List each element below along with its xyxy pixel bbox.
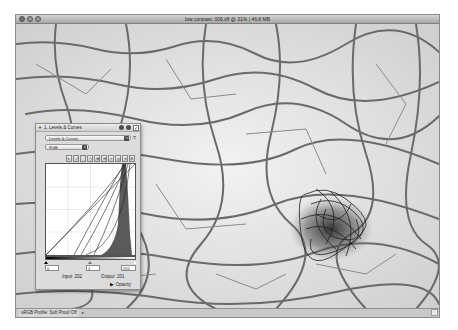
resize-grip[interactable] [431,309,438,316]
opacity-label: Opacity [116,282,131,287]
chevron-down-icon: ▾ [124,136,129,141]
status-bar: sRGB Profile: Soft Proof Off ▸ [16,308,439,317]
panel-header[interactable]: ▼ 1. Levels & Curves ✓ [36,124,140,132]
tool-eyedropper-gray-icon[interactable]: ◎ [115,155,121,162]
tool-reset-icon[interactable]: ✕ [122,155,128,162]
tone-gradient-bar [45,256,136,260]
window-title: low contrast: 006.tiff @ 31% | 46.8 MB [16,16,439,22]
status-menu-arrow-icon[interactable]: ▸ [82,309,84,317]
channel-select-value: RGB [49,145,58,150]
panel-title: 1. Levels & Curves [44,125,82,131]
levels-curves-panel: ▼ 1. Levels & Curves ✓ Levels & Curves ▾… [35,123,141,290]
white-point-input[interactable]: 255 [121,265,136,271]
gamma-slider[interactable] [88,261,92,264]
black-point-input[interactable]: 0 [45,265,59,271]
disclosure-triangle-icon[interactable]: ▼ [38,125,42,131]
tool-add-point-icon[interactable]: ⊕ [94,155,100,162]
opacity-arrow-icon: ▶ [110,282,114,287]
help-icon[interactable]: ? [133,135,136,141]
gamma-input[interactable]: 1 [86,265,100,271]
input-value: Input: 202 [62,274,82,280]
curves-graph[interactable] [45,163,136,256]
enable-checkbox[interactable]: ✓ [133,125,139,131]
black-point-slider[interactable] [44,261,48,264]
tool-settings-icon[interactable]: ⚙ [129,155,135,162]
preset-select[interactable]: Levels & Curves ▾ [45,135,131,141]
color-profile-status[interactable]: sRGB Profile: Soft Proof Off [19,309,79,317]
tool-eyedropper-black-icon[interactable]: ⌖ [108,155,114,162]
title-bar[interactable]: low contrast: 006.tiff @ 31% | 46.8 MB [16,15,439,24]
tool-remove-point-icon[interactable]: ⊖ [101,155,107,162]
chevron-down-icon: ▾ [82,145,87,150]
preset-select-value: Levels & Curves [49,136,78,141]
channel-select[interactable]: RGB ▾ [45,144,89,150]
white-point-slider[interactable] [133,261,137,264]
tool-point-icon[interactable]: ↗ [73,155,79,162]
visibility-icon[interactable] [119,125,124,130]
mask-icon[interactable] [126,125,131,130]
tool-pencil-icon[interactable]: ✎ [87,155,93,162]
output-value: Output: 201 [101,274,125,280]
curves-plot [46,164,135,255]
tool-auto-icon[interactable]: ◐ [66,155,72,162]
opacity-control[interactable]: ▶ Opacity [110,282,131,288]
tool-curve-icon[interactable]: ⌒ [80,155,86,162]
